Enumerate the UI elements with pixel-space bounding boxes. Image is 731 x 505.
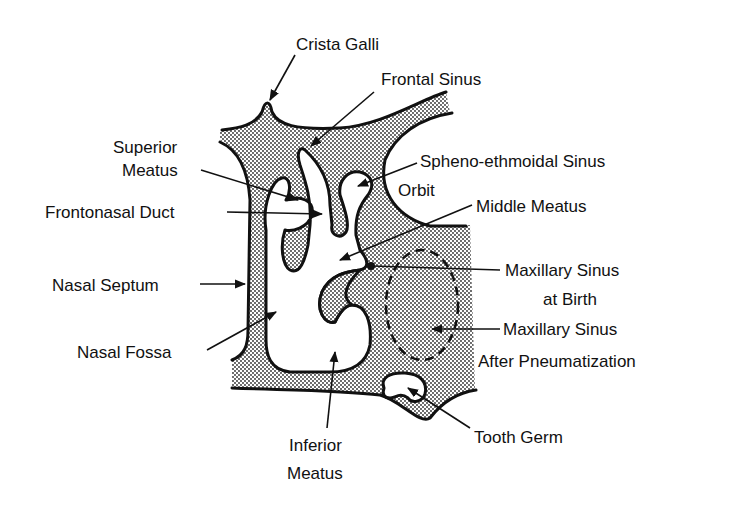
label-nasal-septum: Nasal Septum [52,276,159,295]
nasal-fossa-cavity [265,149,372,372]
label-frontonasal-duct: Frontonasal Duct [45,203,175,222]
label-inferior-meatus-2: Meatus [287,464,343,483]
diagram-canvas: Crista Galli Frontal Sinus Superior Meat… [0,0,731,505]
label-crista-galli: Crista Galli [296,35,379,54]
nasal-septum-outline [220,142,250,360]
label-orbit: Orbit [398,181,435,200]
label-middle-meatus: Middle Meatus [476,197,587,216]
label-maxillary-after-2: After Pneumatization [478,352,636,371]
label-tooth-germ: Tooth Germ [474,428,563,447]
leader-crista-galli [270,55,295,100]
label-superior-meatus-1: Superior [113,138,178,157]
label-maxillary-after-1: Maxillary Sinus [503,320,617,339]
label-frontal-sinus: Frontal Sinus [381,70,481,89]
label-superior-meatus-2: Meatus [122,161,178,180]
label-nasal-fossa: Nasal Fossa [77,343,172,362]
label-inferior-meatus-1: Inferior [289,436,342,455]
label-maxillary-birth-1: Maxillary Sinus [505,261,619,280]
label-spheno-ethmoidal-sinus: Spheno-ethmoidal Sinus [420,152,605,171]
sinus-diagram: Crista Galli Frontal Sinus Superior Meat… [0,0,731,505]
tooth-germ [383,373,426,402]
label-maxillary-birth-2: at Birth [543,290,597,309]
